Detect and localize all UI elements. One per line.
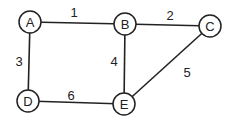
edges — [28, 22, 210, 104]
node-d: D — [17, 90, 39, 112]
edge-d-e — [28, 101, 124, 104]
edge-weights: 1 2 3 4 5 6 — [15, 5, 190, 103]
node-c-label: C — [205, 19, 214, 34]
node-b: B — [114, 13, 136, 35]
node-b-label: B — [121, 17, 130, 32]
edge-a-b — [30, 22, 125, 24]
node-d-label: D — [23, 94, 32, 109]
node-e: E — [113, 93, 135, 115]
node-a-label: A — [26, 15, 35, 30]
weight-b-c: 2 — [166, 8, 173, 23]
node-e-label: E — [120, 97, 129, 112]
node-c: C — [199, 15, 221, 37]
weighted-graph-diagram: 1 2 3 4 5 6 A B C D E — [0, 0, 246, 122]
edge-b-c — [125, 24, 210, 26]
weight-a-b: 1 — [70, 5, 77, 20]
weight-d-e: 6 — [67, 88, 74, 103]
weight-b-e: 4 — [110, 54, 117, 69]
weight-c-e: 5 — [183, 65, 190, 80]
edge-c-e — [124, 26, 210, 104]
edge-b-e — [124, 24, 125, 104]
weight-a-d: 3 — [15, 54, 22, 69]
node-a: A — [19, 11, 41, 33]
edge-a-d — [28, 22, 30, 101]
